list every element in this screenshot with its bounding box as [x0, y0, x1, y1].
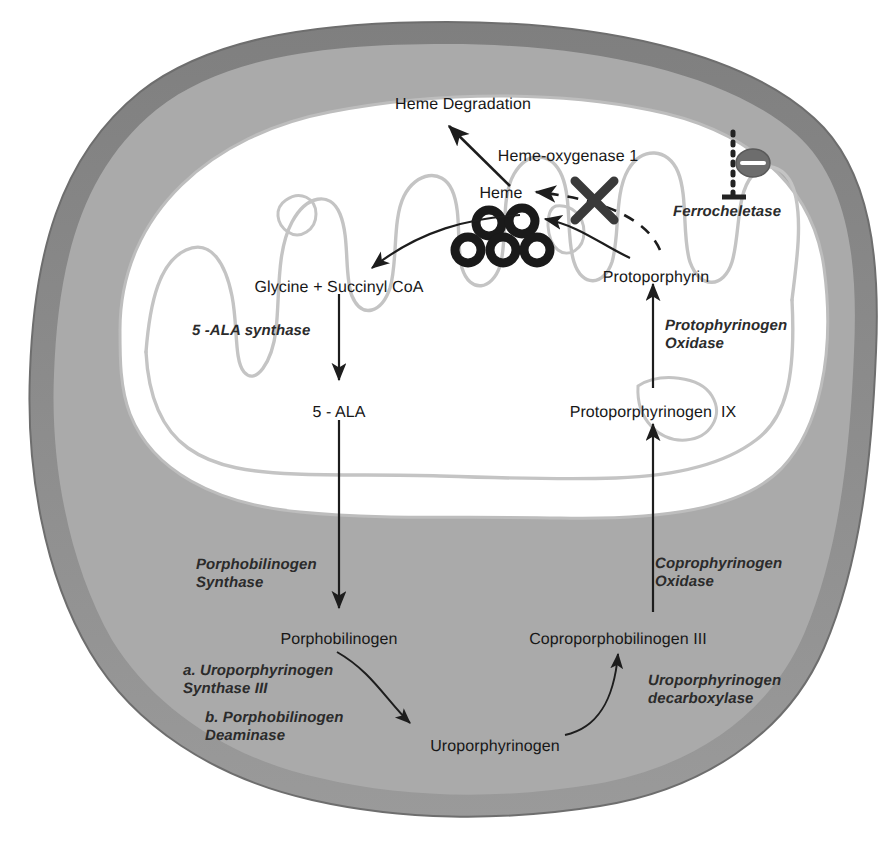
- enzyme-label-ferrocheletase: Ferrocheletase: [673, 203, 781, 221]
- metabolite-label-heme-oxygenase-1: Heme-oxygenase 1: [498, 148, 638, 167]
- enzyme-label-line: a. Uroporphyrinogen: [183, 662, 333, 680]
- enzyme-label-porphobilinogen-deaminase: b. PorphobilinogenDeaminase: [205, 709, 343, 744]
- enzyme-label-line: b. Porphobilinogen: [205, 709, 343, 727]
- pathway-canvas: [0, 0, 894, 852]
- enzyme-label-line: Deaminase: [205, 727, 343, 745]
- enzyme-label-uroporphyrinogen-synthase-3: a. UroporphyrinogenSynthase III: [183, 662, 333, 697]
- enzyme-label-line: Porphobilinogen: [196, 556, 317, 574]
- metabolite-label-protoporphyrinogen-9: Protoporphyrinogen IX: [570, 404, 737, 423]
- enzyme-label-line: Ferrocheletase: [673, 203, 781, 221]
- metabolite-label-coproporphobilinogen-3: Coproporphobilinogen III: [529, 631, 707, 650]
- enzyme-label-coprophyrinogen-oxidase: CoprophyrinogenOxidase: [655, 555, 782, 590]
- metabolite-label-protoporphyrin: Protoporphyrin: [603, 269, 709, 288]
- enzyme-label-line: Coprophyrinogen: [655, 555, 782, 573]
- enzyme-label-protophyrinogen-oxidase: ProtophyrinogenOxidase: [665, 317, 787, 352]
- metabolite-label-heme: Heme: [479, 185, 522, 204]
- metabolite-label-five-ala: 5 - ALA: [312, 404, 365, 423]
- enzyme-label-line: Oxidase: [665, 335, 787, 353]
- mitochondrion-outer-membrane: [120, 96, 828, 518]
- enzyme-label-line: Synthase: [196, 574, 317, 592]
- enzyme-label-ala-synthase: 5 -ALA synthase: [192, 322, 310, 340]
- enzyme-label-line: Protophyrinogen: [665, 317, 787, 335]
- enzyme-label-line: Oxidase: [655, 573, 782, 591]
- enzyme-label-uroporphyrinogen-decarboxylase: Uroporphyrinogendecarboxylase: [648, 672, 781, 707]
- enzyme-label-line: decarboxylase: [648, 690, 781, 708]
- enzyme-label-line: Synthase III: [183, 680, 333, 698]
- enzyme-label-line: Uroporphyrinogen: [648, 672, 781, 690]
- metabolite-label-glycine-succinyl-coa: Glycine + Succinyl CoA: [255, 279, 424, 298]
- enzyme-label-porphobilinogen-synthase: PorphobilinogenSynthase: [196, 556, 317, 591]
- enzyme-label-line: 5 -ALA synthase: [192, 322, 310, 340]
- heme-pathway-diagram: Heme DegradationHemeGlycine + Succinyl C…: [0, 0, 894, 852]
- metabolite-label-heme-degradation: Heme Degradation: [395, 96, 531, 115]
- mitochondrion: [120, 96, 828, 518]
- metabolite-label-uroporphyrinogen: Uroporphyrinogen: [430, 738, 560, 757]
- metabolite-label-porphobilinogen: Porphobilinogen: [280, 631, 397, 650]
